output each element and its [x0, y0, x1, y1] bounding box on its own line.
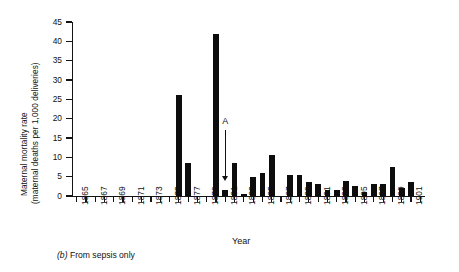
y-tick-label-35: 35	[28, 55, 62, 65]
y-axis-line	[72, 22, 73, 197]
figure-caption-prefix: (b)	[57, 250, 68, 260]
annotation-arrow-line	[225, 130, 226, 178]
y-tick-label-40: 40	[28, 36, 62, 46]
bar-1897	[371, 184, 377, 196]
y-tick-label-30: 30	[28, 75, 62, 85]
x-tick-1891	[318, 197, 319, 202]
x-tick-1897	[373, 197, 374, 202]
bar-1888	[287, 175, 293, 196]
y-tick-label-45: 45	[28, 17, 62, 27]
x-tick-label-1873: 1873	[154, 186, 164, 205]
y-tick-label-10: 10	[28, 152, 62, 162]
x-tick-1881	[225, 197, 226, 202]
y-tick-0	[66, 195, 72, 196]
bar-1889	[297, 175, 303, 196]
x-tick-1883	[243, 197, 244, 202]
x-tick-1879	[206, 197, 207, 202]
x-tick-1869	[113, 197, 114, 202]
y-tick-40	[66, 41, 72, 42]
y-tick-20	[66, 118, 72, 119]
bar-1895	[352, 186, 358, 196]
x-tick-1865	[76, 197, 77, 202]
bar-1898	[380, 184, 386, 196]
y-tick-label-15: 15	[28, 133, 62, 143]
x-tick-1873	[150, 197, 151, 202]
bar-1900	[399, 188, 405, 196]
y-tick-label-25: 25	[28, 94, 62, 104]
bar-1891	[315, 184, 321, 196]
bar-1884	[250, 177, 256, 196]
x-tick-1887	[280, 197, 281, 202]
bar-1880	[213, 34, 219, 196]
bar-1894	[343, 181, 349, 196]
x-tick-1901	[410, 197, 411, 202]
y-tick-label-0: 0	[28, 191, 62, 201]
y-tick-35	[66, 60, 72, 61]
y-tick-10	[66, 157, 72, 158]
y-tick-25	[66, 99, 72, 100]
figure-caption-text: From sepsis only	[70, 250, 135, 260]
bar-1881	[222, 190, 228, 196]
bar-1899	[390, 167, 396, 196]
bar-1876	[176, 95, 182, 196]
figure-caption: (b) From sepsis only	[57, 250, 135, 260]
x-tick-1899	[392, 197, 393, 202]
x-tick-label-1865: 1865	[80, 186, 90, 205]
x-tick-1877	[188, 197, 189, 202]
annotation-arrow-head	[222, 176, 228, 181]
x-tick-1875	[169, 197, 170, 202]
bar-1893	[334, 190, 340, 196]
x-tick-label-1901: 1901	[414, 186, 424, 205]
annotation-label-a: A	[222, 116, 228, 126]
bar-1886	[269, 155, 275, 196]
x-axis-title: Year	[232, 236, 250, 246]
bar-1885	[260, 173, 266, 196]
x-tick-1871	[132, 197, 133, 202]
x-tick-1889	[299, 197, 300, 202]
bar-1877	[185, 163, 191, 196]
y-tick-30	[66, 79, 72, 80]
x-tick-label-1877: 1877	[192, 186, 202, 205]
bar-1901	[408, 182, 414, 196]
x-tick-1867	[95, 197, 96, 202]
y-tick-45	[66, 21, 72, 22]
y-tick-label-20: 20	[28, 113, 62, 123]
figure-maternal-mortality-sepsis: Maternal mortality rate (maternal deaths…	[0, 0, 459, 272]
y-tick-label-5: 5	[28, 171, 62, 181]
x-tick-1893	[336, 197, 337, 202]
y-tick-15	[66, 137, 72, 138]
x-tick-1885	[262, 197, 263, 202]
x-tick-1895	[355, 197, 356, 202]
x-tick-label-1869: 1869	[117, 186, 127, 205]
y-tick-5	[66, 176, 72, 177]
bar-1892	[325, 190, 331, 196]
x-tick-label-1871: 1871	[136, 186, 146, 205]
bar-1883	[241, 194, 247, 196]
bar-1882	[232, 163, 238, 196]
x-tick-label-1867: 1867	[99, 186, 109, 205]
bar-1896	[362, 192, 368, 196]
bar-1890	[306, 182, 312, 196]
